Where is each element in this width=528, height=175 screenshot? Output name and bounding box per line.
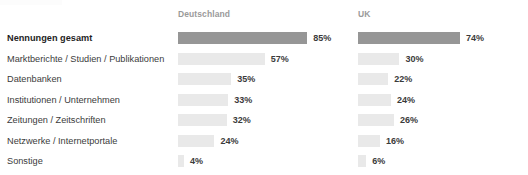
column-header-deutschland: Deutschland <box>178 9 230 20</box>
chart-row: Zeitungen / Zeitschriften32%26% <box>0 110 528 130</box>
bar-value-uk: 24% <box>397 90 415 110</box>
bar-value-de: 85% <box>313 28 331 48</box>
row-label: Datenbanken <box>7 69 62 89</box>
bar-value-uk: 74% <box>466 28 484 48</box>
bar-value-uk: 6% <box>372 151 385 171</box>
bar-value-de: 57% <box>271 49 289 69</box>
bar-uk <box>358 155 366 167</box>
row-label: Institutionen / Unternehmen <box>7 90 120 110</box>
chart-row: Institutionen / Unternehmen33%24% <box>0 90 528 110</box>
column-header-uk: UK <box>358 9 370 20</box>
bar-de <box>178 94 228 106</box>
chart-row: Datenbanken35%22% <box>0 69 528 89</box>
bar-de <box>178 155 184 167</box>
bar-de <box>178 32 307 44</box>
bar-uk <box>358 32 460 44</box>
chart-row: Netzwerke / Internetportale24%16% <box>0 131 528 151</box>
bar-uk <box>358 114 394 126</box>
bar-value-uk: 26% <box>400 110 418 130</box>
bar-value-de: 4% <box>190 151 203 171</box>
bar-value-uk: 30% <box>405 49 423 69</box>
bar-value-de: 35% <box>237 69 255 89</box>
bar-de <box>178 53 265 65</box>
bar-uk <box>358 53 399 65</box>
bar-uk <box>358 135 380 147</box>
chart-row: Sonstige4%6% <box>0 151 528 171</box>
bar-uk <box>358 94 391 106</box>
clipped-title-remnant <box>0 0 62 5</box>
row-label: Marktberichte / Studien / Publikationen <box>7 49 164 69</box>
bar-value-uk: 22% <box>394 69 412 89</box>
bar-value-de: 32% <box>233 110 251 130</box>
bar-de <box>178 73 231 85</box>
row-label: Netzwerke / Internetportale <box>7 131 117 151</box>
row-label: Nennungen gesamt <box>7 28 92 48</box>
chart-row: Nennungen gesamt85%74% <box>0 28 528 48</box>
bar-de <box>178 135 214 147</box>
bar-value-de: 33% <box>234 90 252 110</box>
bar-de <box>178 114 227 126</box>
chart-row: Marktberichte / Studien / Publikationen5… <box>0 49 528 69</box>
bar-value-de: 24% <box>220 131 238 151</box>
chart-container: Deutschland UK Nennungen gesamt85%74%Mar… <box>0 0 528 175</box>
bar-uk <box>358 73 388 85</box>
row-label: Zeitungen / Zeitschriften <box>7 110 106 130</box>
row-label: Sonstige <box>7 151 43 171</box>
bar-value-uk: 16% <box>386 131 404 151</box>
